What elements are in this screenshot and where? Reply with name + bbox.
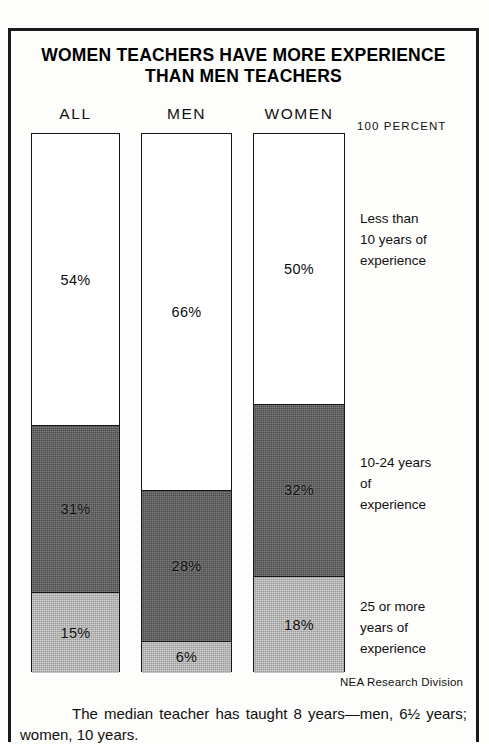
legend-line: 10-24 years: [360, 452, 478, 473]
legend-line: experience: [360, 494, 478, 515]
bar-segment-men-less-than-10: 66%: [142, 134, 231, 490]
bar-column-women: 50% 32% 18%: [253, 133, 345, 672]
segment-value-label: 15%: [61, 625, 91, 641]
legend-item-25-or-more-years: 25 or more years of experience: [360, 596, 478, 659]
segment-value-label: 18%: [284, 617, 314, 633]
bar-segment-women-10-to-24: 32%: [254, 404, 344, 577]
segment-value-label: 6%: [176, 649, 198, 665]
bar-segment-all-25-or-more: 15%: [32, 592, 119, 673]
footnote-line-1: The median teacher has taught 8 years—me…: [20, 705, 420, 722]
legend-line: of: [360, 473, 478, 494]
chart-title-line-1: WOMEN TEACHERS HAVE MORE EXPERIENCE: [14, 45, 473, 66]
segment-value-label: 32%: [284, 482, 314, 498]
column-header-women: WOMEN: [253, 105, 345, 123]
bar-segment-all-less-than-10: 54%: [32, 134, 119, 425]
legend-line: 10 years of: [360, 229, 478, 250]
segment-value-label: 31%: [61, 501, 91, 517]
legend-line: years of: [360, 617, 478, 638]
legend-line: experience: [360, 250, 478, 271]
chart-title: WOMEN TEACHERS HAVE MORE EXPERIENCE THAN…: [14, 45, 473, 87]
legend-line: Less than: [360, 208, 478, 229]
legend-item-less-than-10-years: Less than 10 years of experience: [360, 208, 478, 271]
segment-value-label: 28%: [172, 558, 202, 574]
bar-segment-women-25-or-more: 18%: [254, 576, 344, 673]
bar-column-all: 54% 31% 15%: [31, 133, 120, 672]
legend-item-10-to-24-years: 10-24 years of experience: [360, 452, 478, 515]
bar-segment-men-25-or-more: 6%: [142, 641, 231, 673]
bar-segment-women-less-than-10: 50%: [254, 134, 344, 404]
bar-segment-all-10-to-24: 31%: [32, 425, 119, 592]
chart-figure: WOMEN TEACHERS HAVE MORE EXPERIENCE THAN…: [0, 0, 489, 744]
segment-value-label: 54%: [61, 272, 91, 288]
legend-line: experience: [360, 638, 478, 659]
column-header-all: ALL: [31, 105, 120, 123]
legend-line: 25 or more: [360, 596, 478, 617]
source-credit: NEA Research Division: [340, 676, 463, 688]
bar-segment-men-10-to-24: 28%: [142, 490, 231, 641]
bar-column-men: 66% 28% 6%: [141, 133, 232, 672]
segment-value-label: 50%: [284, 261, 314, 277]
segment-value-label: 66%: [172, 304, 202, 320]
column-header-men: MEN: [141, 105, 232, 123]
axis-note-100-percent: 100 PERCENT: [357, 120, 446, 132]
chart-title-line-2: THAN MEN TEACHERS: [14, 66, 473, 87]
chart-footnote: The median teacher has taught 8 years—me…: [20, 703, 467, 744]
